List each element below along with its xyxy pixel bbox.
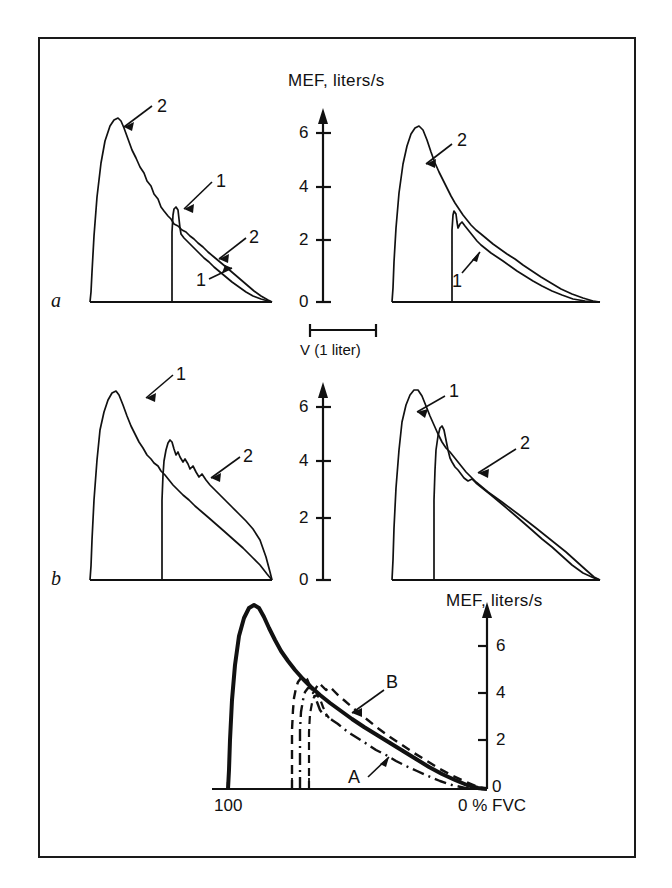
panel-b-left-arrow-1-line bbox=[146, 375, 173, 398]
panel-b-right-curve-1 bbox=[392, 390, 600, 580]
panel-c-xaxis-label-left: 100 bbox=[214, 797, 242, 814]
panel-a-axis-title: MEF, liters/s bbox=[288, 72, 384, 89]
panel-b-left-arrow-2-line bbox=[211, 457, 240, 478]
panel-a-axis-arrowhead bbox=[318, 108, 328, 124]
panel-c-arrow-a-head bbox=[380, 757, 389, 767]
panel-a-right-label-2: 2 bbox=[457, 131, 467, 149]
panel-a-right-curve-2 bbox=[392, 126, 600, 302]
panel-a-axis bbox=[316, 108, 331, 302]
panel-a-left-arrow-2-top-line bbox=[124, 106, 152, 127]
panel-b-right-curve-2 bbox=[434, 426, 600, 580]
panel-b-right-label-2: 2 bbox=[520, 434, 530, 452]
panel-c-chart bbox=[212, 602, 492, 789]
panel-a-left-label-1-top: 1 bbox=[216, 172, 226, 190]
figure-root: MEF, liters/s 6 4 2 0 a 2 1 2 1 2 1 V (1… bbox=[0, 0, 672, 888]
panel-b-left-chart bbox=[90, 375, 272, 580]
panel-a-left-arrow-1-top-line bbox=[184, 182, 212, 209]
panel-b-right-arrow-1-line bbox=[417, 396, 445, 412]
panel-c-tick-label-4: 4 bbox=[496, 684, 505, 701]
panel-b-left-curve-2 bbox=[162, 440, 272, 580]
panel-b-axis bbox=[316, 382, 331, 580]
panel-b-left-label-1: 1 bbox=[176, 365, 186, 383]
panel-a-left-arrow-2-right-line bbox=[219, 238, 246, 259]
panel-a-left-label-2-right: 2 bbox=[249, 228, 259, 246]
panel-c-arrow-b-line bbox=[352, 690, 384, 713]
panel-a-left-curve-1 bbox=[172, 207, 272, 302]
panel-a-left-curve-2 bbox=[90, 118, 272, 302]
panel-b-axis-arrowhead bbox=[318, 382, 328, 398]
panel-a-right-chart bbox=[392, 126, 600, 302]
panel-a-tick-label-0: 0 bbox=[299, 293, 308, 310]
panel-c-axis-title: MEF, liters/s bbox=[446, 592, 542, 609]
panel-a-tick-label-6: 6 bbox=[299, 124, 308, 141]
volume-scale-label: V (1 liter) bbox=[300, 342, 361, 357]
panel-label-a: a bbox=[51, 290, 61, 310]
panel-a-left-arrow-1-top-head bbox=[184, 204, 194, 213]
panel-c-tick-label-0: 0 bbox=[492, 778, 501, 795]
panel-b-left-label-2: 2 bbox=[243, 447, 253, 465]
panel-b-right-label-1: 1 bbox=[449, 382, 459, 400]
panel-a-right-label-1: 1 bbox=[452, 272, 462, 290]
panel-c-tick-label-6: 6 bbox=[496, 637, 505, 654]
panel-c-label-a: A bbox=[348, 768, 360, 786]
volume-scale-bar bbox=[310, 324, 376, 337]
panel-a-tick-label-4: 4 bbox=[299, 178, 308, 195]
panel-c-tick-label-2: 2 bbox=[496, 731, 505, 748]
panel-a-left-chart bbox=[90, 106, 272, 302]
panel-c-xaxis-label-right: 0 % FVC bbox=[458, 797, 526, 814]
panel-b-tick-label-6: 6 bbox=[299, 398, 308, 415]
panel-b-tick-label-4: 4 bbox=[299, 452, 308, 469]
panel-a-left-label-2-top: 2 bbox=[157, 97, 167, 115]
panel-b-right-arrow-2-line bbox=[478, 449, 516, 473]
panel-b-tick-label-2: 2 bbox=[299, 509, 308, 526]
panel-c-curve-reference bbox=[228, 605, 487, 789]
panel-a-right-curve-1 bbox=[452, 211, 600, 302]
panel-a-tick-label-2: 2 bbox=[299, 231, 308, 248]
panel-b-tick-label-0: 0 bbox=[299, 571, 308, 588]
panel-b-left-curve-1 bbox=[90, 391, 272, 580]
panel-a-left-label-1-low: 1 bbox=[196, 271, 206, 289]
panel-b-right-chart bbox=[392, 390, 600, 580]
figure-graphics bbox=[0, 0, 672, 888]
panel-c-label-b: B bbox=[386, 673, 398, 691]
panel-label-b: b bbox=[51, 568, 61, 588]
panel-c-curve-b bbox=[292, 676, 487, 789]
